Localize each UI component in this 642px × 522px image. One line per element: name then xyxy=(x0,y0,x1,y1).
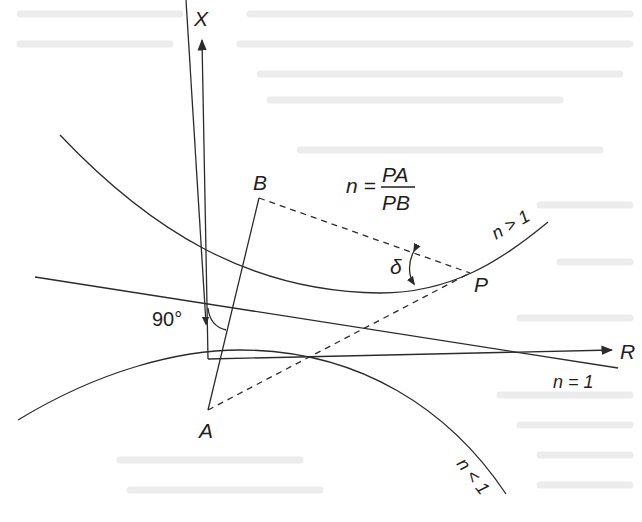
n-less-1-curve xyxy=(18,350,506,494)
apollonius-diagram: X R A B P n = PA PB 90° δ n > 1 n = 1 n … xyxy=(0,0,642,522)
right-angle-arc xyxy=(208,308,226,330)
right-angle-label: 90° xyxy=(152,308,182,330)
n-less-1-label: n < 1 xyxy=(453,454,494,498)
delta-angle-arc xyxy=(410,251,415,284)
ratio-denominator: PB xyxy=(382,191,410,214)
point-b-label: B xyxy=(253,171,267,194)
n-equal-1-line xyxy=(35,277,618,368)
segment-bp xyxy=(259,198,470,273)
right-angle-pointer xyxy=(186,0,206,324)
ratio-numerator: PA xyxy=(382,163,408,186)
n-equal-1-label: n = 1 xyxy=(553,372,594,392)
r-axis-label: R xyxy=(620,340,635,363)
delta-label: δ xyxy=(390,255,402,278)
segment-ap xyxy=(208,273,470,410)
x-axis-label: X xyxy=(193,7,209,30)
n-greater-1-label: n > 1 xyxy=(488,206,533,244)
point-p-label: P xyxy=(474,273,488,296)
segment-ab xyxy=(208,198,259,410)
point-a-label: A xyxy=(197,419,213,442)
ratio-formula: n = PA PB xyxy=(346,163,415,214)
ratio-lhs: n = xyxy=(346,174,376,197)
